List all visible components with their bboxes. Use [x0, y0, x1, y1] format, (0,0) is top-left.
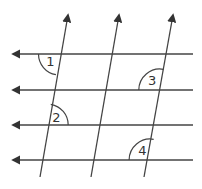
transversal-lines	[40, 15, 173, 177]
transversal-line-arrow	[144, 15, 173, 177]
angle-3-label: 3	[148, 73, 156, 88]
transversal-line-arrow	[40, 15, 68, 177]
angle-2-label: 2	[52, 110, 60, 125]
angle-4-label: 4	[138, 143, 146, 158]
angle-labels: 1234	[46, 54, 156, 158]
parallel-lines-transversals-diagram: 1234	[0, 0, 202, 189]
angle-1-label: 1	[46, 54, 54, 69]
transversal-line-arrow	[91, 15, 119, 177]
